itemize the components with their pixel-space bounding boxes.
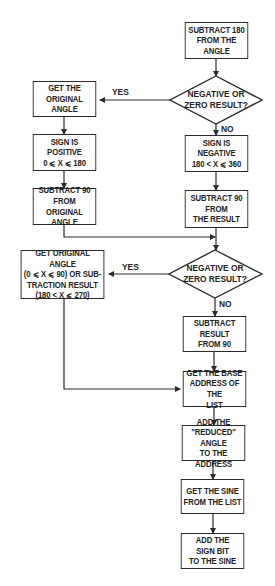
node-text: (0 ⩽ X ⩽ 90) OR SUB-: [24, 269, 101, 280]
node-text: SIGN BIT: [196, 546, 229, 557]
node-text: SIGN IS POSITIVE: [34, 137, 96, 158]
node-text: ADD THE: [196, 535, 230, 546]
base-address-box: GET THE BASE ADDRESS OF THE LIST: [183, 371, 246, 407]
node-text: FROM: [53, 196, 75, 207]
node-text: GET THE BASE: [187, 368, 243, 379]
no-label-1: NO: [221, 124, 234, 134]
node-text: SUBTRACT 180: [188, 25, 244, 36]
add-reduced-angle-box: ADD THE "REDUCED" ANGLE TO THE ADDRESS: [182, 425, 245, 461]
node-text: SUBTRACT 90: [190, 193, 242, 204]
node-text: SUBTRACT: [194, 318, 236, 329]
get-original-or-subtraction-box: GET ORIGINAL ANGLE (0 ⩽ X ⩽ 90) OR SUB- …: [21, 250, 105, 299]
node-text: FROM: [205, 204, 227, 215]
node-text: "REDUCED" ANGLE: [183, 427, 245, 448]
subtract-180-box: SUBTRACT 180 FROM THE ANGLE: [185, 22, 248, 59]
node-text: ADDRESS OF THE: [184, 378, 246, 399]
node-text: SIGN IS NEGATIVE: [186, 138, 248, 159]
node-text: RESULT: [200, 329, 230, 340]
subtract-90-original-box: SUBTRACT 90 FROM ORIGINAL ANGLE: [33, 188, 96, 225]
node-text: SUBTRACT 90: [38, 185, 90, 196]
node-text: ORIGINAL ANGLE: [34, 207, 96, 228]
node-text: ADD THE: [197, 417, 231, 428]
get-sine-box: GET THE SINE FROM THE LIST: [181, 479, 244, 514]
node-text: 180 < X ⩽ 360: [192, 159, 241, 170]
add-sign-bit-box: ADD THE SIGN BIT TO THE SINE: [181, 533, 244, 569]
sign-positive-box: SIGN IS POSITIVE 0 ⩽ X ⩽ 180: [33, 134, 96, 171]
no-label-2: NO: [219, 299, 232, 309]
node-text: NEGATIVE OR: [186, 263, 243, 274]
node-text: FROM THE ANGLE: [186, 35, 248, 56]
node-text: LIST: [206, 400, 222, 411]
yes-label-1: YES: [112, 87, 129, 97]
yes-label-2: YES: [122, 262, 139, 272]
node-text: GET THE SINE: [186, 486, 238, 497]
node-text: GET ORIGINAL ANGLE: [22, 248, 104, 269]
node-text: THE RESULT: [193, 214, 240, 225]
node-text: ZERO RESULT?: [184, 100, 248, 111]
node-text: TRACTION RESULT: [27, 280, 98, 291]
node-text: TO THE SINE: [189, 556, 236, 567]
node-text: FROM THE LIST: [184, 497, 242, 508]
subtract-from-90-box: SUBTRACT RESULT FROM 90: [183, 316, 246, 352]
node-text: NEGATIVE OR: [187, 89, 244, 100]
decision-2-text: NEGATIVE OR ZERO RESULT?: [175, 263, 255, 285]
node-text: FROM 90: [198, 339, 231, 350]
subtract-90-result-box: SUBTRACT 90 FROM THE RESULT: [185, 190, 248, 228]
get-original-angle-box: GET THE ORIGINAL ANGLE: [33, 81, 96, 117]
sign-negative-box: SIGN IS NEGATIVE 180 < X ⩽ 360: [185, 135, 248, 172]
node-text: ORIGINAL ANGLE: [34, 94, 96, 115]
node-text: (180 < X ⩽ 270): [35, 290, 89, 301]
node-text: GET THE: [48, 83, 81, 94]
node-text: TO THE ADDRESS: [183, 448, 245, 469]
decision-1-text: NEGATIVE OR ZERO RESULT?: [176, 89, 256, 111]
node-text: 0 ⩽ X ⩽ 180: [43, 158, 86, 169]
node-text: ZERO RESULT?: [183, 274, 247, 285]
